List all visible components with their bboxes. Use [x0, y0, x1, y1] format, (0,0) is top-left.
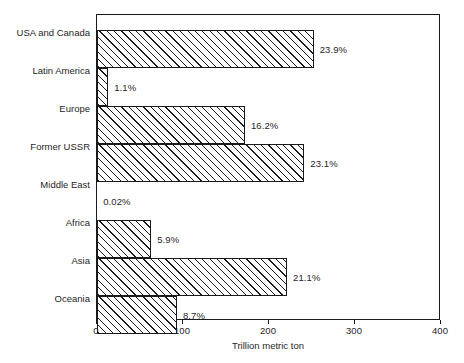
bar-value-label-former-ussr: 23.1% [310, 158, 337, 169]
bar-value-label-middle-east: 0.02% [103, 196, 130, 207]
bar-latin-america [97, 68, 108, 106]
figure-caption [34, 357, 454, 363]
x-axis-tick-label-100: 100 [174, 325, 190, 336]
bar-value-label-oceania: 8.7% [183, 310, 205, 321]
x-axis-tick-300 [354, 320, 355, 324]
y-axis-label-usa-and-canada: USA and Canada [0, 14, 90, 52]
bar-chart-figure: USA and Canada Latin America Europe Form… [0, 0, 464, 363]
y-axis-label-asia: Asia [0, 242, 90, 280]
bar-row-latin-america: 1.1% [97, 68, 439, 106]
x-axis-tick-400 [440, 320, 441, 324]
x-axis-title: Trillion metric ton [96, 340, 440, 351]
bar-africa [97, 220, 151, 258]
y-axis-label-former-ussr: Former USSR [0, 128, 90, 166]
y-axis-label-africa: Africa [0, 204, 90, 242]
bar-value-label-africa: 5.9% [157, 234, 179, 245]
x-axis-tick-label-300: 300 [346, 325, 362, 336]
bar-value-label-usa-and-canada: 23.9% [320, 44, 347, 55]
y-axis-label-latin-america: Latin America [0, 52, 90, 90]
bar-value-label-europe: 16.2% [251, 120, 278, 131]
bar-row-middle-east: 0.02% [97, 182, 439, 220]
y-axis-label-oceania: Oceania [0, 280, 90, 318]
y-axis-label-europe: Europe [0, 90, 90, 128]
bar-row-usa-and-canada: 23.9% [97, 30, 439, 68]
x-axis-tick-0 [96, 320, 97, 324]
y-axis-label-middle-east: Middle East [0, 166, 90, 204]
bar-row-africa: 5.9% [97, 220, 439, 258]
x-axis-tick-labels: 0100200300400 [96, 325, 440, 339]
bar-value-label-asia: 21.1% [293, 272, 320, 283]
bar-europe [97, 106, 245, 144]
bar-asia [97, 258, 287, 296]
x-axis-tick-label-400: 400 [432, 325, 448, 336]
bar-row-asia: 21.1% [97, 258, 439, 296]
y-axis-category-labels: USA and Canada Latin America Europe Form… [0, 14, 90, 320]
bar-value-label-latin-america: 1.1% [114, 82, 136, 93]
x-axis-tick-label-200: 200 [260, 325, 276, 336]
bar-row-europe: 16.2% [97, 106, 439, 144]
x-axis-tick-200 [268, 320, 269, 324]
x-axis-tick-label-0: 0 [93, 325, 98, 336]
bar-former-ussr [97, 144, 304, 182]
bar-usa-and-canada [97, 30, 314, 68]
bar-row-former-ussr: 23.1% [97, 144, 439, 182]
x-axis-tick-100 [182, 320, 183, 324]
plot-area: 23.9% 1.1% 16.2% 23.1% 0.02% 5.9% 21.1% [96, 14, 440, 320]
